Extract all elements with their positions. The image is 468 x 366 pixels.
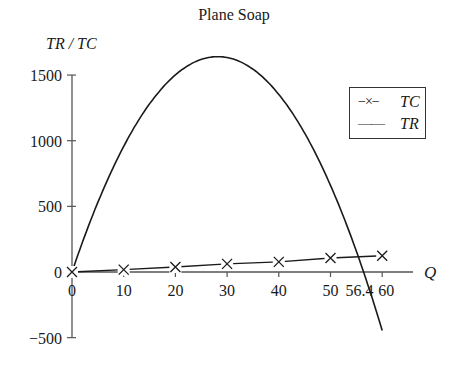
y-tick-label: 0 — [54, 264, 62, 281]
y-tick-label: 1000 — [30, 133, 62, 150]
solid-line-icon: —— — [358, 116, 394, 132]
x-axis-label: Q — [424, 263, 436, 282]
x-tick-label: 50 — [323, 282, 339, 299]
chart-legend: −×− TC —— TR — [349, 87, 426, 139]
x-tick-label: 60 — [378, 282, 394, 299]
x-tick-label: 30 — [219, 282, 235, 299]
legend-item-tc: −×− TC — [358, 92, 420, 112]
y-tick-label: 1500 — [30, 67, 62, 84]
line-x-marker-icon: −×− — [358, 94, 394, 110]
x-tick-label: 40 — [271, 282, 287, 299]
x-tick-label: 0 — [68, 282, 76, 299]
legend-item-tr: —— TR — [358, 114, 419, 134]
y-tick-label: −500 — [29, 330, 62, 347]
y-tick-label: 500 — [38, 198, 62, 215]
x-tick-label: 20 — [167, 282, 183, 299]
chart-plot: Q150010005000−5000102030405056.460 — [0, 0, 468, 366]
x-tick-label: 10 — [116, 282, 132, 299]
legend-label: TC — [400, 93, 420, 111]
legend-label: TR — [400, 115, 419, 133]
